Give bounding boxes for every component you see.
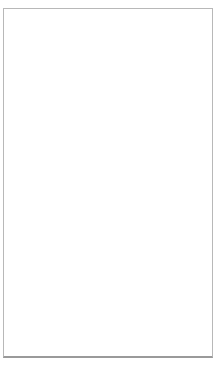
cytoskeleton-illustration (0, 0, 220, 369)
